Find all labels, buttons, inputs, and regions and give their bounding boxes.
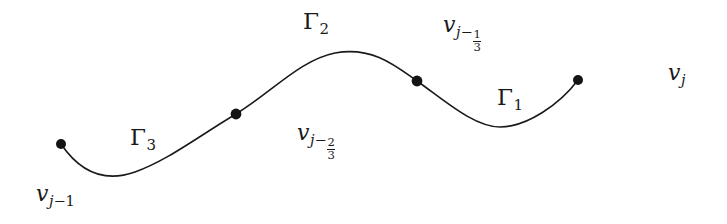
fraction-numerator: 1 [473,29,481,41]
v-symbol: v [297,120,309,145]
fraction-denominator: 3 [327,150,335,162]
vertex-dot-v-j-minus-1 [56,139,66,149]
gamma-symbol: Γ [497,84,513,110]
vertex-dot-v-j-minus-2-3 [231,109,242,120]
subscript-fraction: 23 [327,137,335,162]
vertex-label-v-j-minus-1-3: vj−13 [443,14,481,54]
subscript-fraction: 13 [473,29,481,54]
subscript-operator: − [314,132,326,148]
vertex-subscript: j−23 [310,132,336,148]
vertex-label-v-j-minus-2-3: vj−23 [297,122,335,162]
gamma-subscript: 1 [513,96,523,114]
vertex-dot-v-j [573,75,583,85]
vertex-subscript: j−13 [456,24,482,40]
gamma-symbol: Γ [303,8,319,34]
fraction-denominator: 3 [473,42,481,54]
gamma-subscript: 3 [146,136,156,154]
vertex-subscript: j [681,72,686,88]
vertex-label-v-j-minus-1: vj−1 [36,183,75,208]
v-symbol: v [668,60,680,85]
v-symbol: v [36,181,48,206]
v-symbol: v [443,12,455,37]
arc-label-gamma-2: Γ2 [303,10,329,37]
subscript-base: j [681,72,686,88]
gamma-subscript: 2 [319,20,329,38]
fraction-numerator: 2 [327,137,335,149]
arc-label-gamma-3: Γ3 [130,126,156,153]
vertex-subscript: j−1 [49,193,75,209]
gamma-symbol: Γ [130,124,146,150]
curve-diagram [0,0,727,224]
figure-canvas: Γ3 Γ2 Γ1 vj−1 vj−23 vj−13 vj [0,0,727,224]
arc-label-gamma-1: Γ1 [497,86,523,113]
subscript-operator: − [460,24,472,40]
subscript-value: 1 [66,193,75,209]
vertex-label-v-j: vj [668,62,685,87]
vertex-dot-v-j-minus-1-3 [412,76,423,87]
subscript-operator: − [53,193,65,209]
